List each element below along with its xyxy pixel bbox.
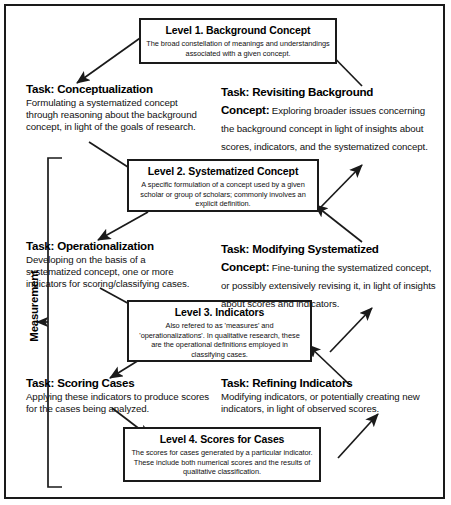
task-operationalization-heading: Task: Operationalization [26,239,199,254]
task-conceptualization-body: Formulating a systematized concept throu… [26,97,208,134]
level-box-2: Level 2. Systematized Concept A specific… [127,159,319,212]
task-modifying-systematized-heading-cont: Concept: [221,260,269,273]
level-3-body: Also refered to as 'measures' and 'opera… [134,321,305,359]
level-box-1: Level 1. Background Concept The broad co… [139,18,337,64]
task-scoring-cases-heading: Task: Scoring Cases [26,376,212,391]
task-operationalization: Task: Operationalization Developing on t… [26,239,199,291]
level-4-title: Level 4. Scores for Cases [130,433,314,446]
task-refining-indicators: Task: Refining Indicators Modifying indi… [221,376,433,415]
level-4-body: The scores for cases generated by a part… [130,448,314,477]
level-box-4: Level 4. Scores for Cases The scores for… [123,427,321,482]
level-2-title: Level 2. Systematized Concept [134,165,312,178]
level-1-body: The broad constellation of meanings and … [146,39,330,58]
level-2-body: A specific formulation of a concept used… [134,180,312,209]
task-scoring-cases: Task: Scoring Cases Applying these indic… [26,376,212,415]
task-scoring-cases-body: Applying these indicators to produce sco… [26,391,212,416]
task-conceptualization: Task: Conceptualization Formulating a sy… [26,82,208,134]
diagram-canvas: Level 1. Background Concept The broad co… [0,0,451,505]
task-refining-indicators-body: Modifying indicators, or potentially cre… [221,391,433,416]
task-conceptualization-heading: Task: Conceptualization [26,82,208,97]
task-refining-indicators-heading: Task: Refining Indicators [221,376,433,391]
task-operationalization-body: Developing on the basis of a systematize… [26,254,199,291]
task-revisiting-background: Task: Revisiting Background Concept: Exp… [221,82,436,154]
task-revisiting-background-heading-cont: Concept: [221,103,269,116]
task-modifying-systematized-heading: Task: Modifying Systematized [221,242,379,255]
task-revisiting-background-heading: Task: Revisiting Background [221,85,373,98]
measurement-bracket-label: Measurement [28,246,40,366]
level-1-title: Level 1. Background Concept [146,24,330,37]
task-modifying-systematized: Task: Modifying Systematized Concept: Fi… [221,239,436,311]
